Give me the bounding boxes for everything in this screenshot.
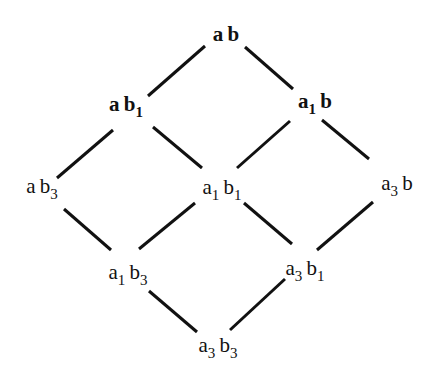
node-ab3: a b3 xyxy=(26,176,58,202)
edge-ab1-ab3 xyxy=(57,130,113,178)
edge-a1b-a1b1 xyxy=(237,121,290,168)
node-subscript: 3 xyxy=(391,183,399,199)
node-a1b3: a1 b3 xyxy=(108,262,147,288)
node-a1b: a1 b xyxy=(298,91,332,117)
node-symbol: b xyxy=(320,89,332,113)
node-subscript: 3 xyxy=(140,272,148,288)
node-subscript: 3 xyxy=(295,268,303,284)
edge-ab3-a1b3 xyxy=(64,209,111,250)
node-symbol: a xyxy=(381,171,390,195)
node-symbol: a xyxy=(298,89,309,113)
node-symbol: b xyxy=(402,171,413,195)
node-subscript: 1 xyxy=(317,268,325,284)
node-symbol: b xyxy=(124,92,136,116)
edge-a3b-a3b1 xyxy=(317,202,373,250)
edge-a3b1-a3b3 xyxy=(230,279,285,330)
edge-a1b-a3b xyxy=(322,120,369,159)
edge-a1b3-a3b3 xyxy=(149,291,197,332)
node-subscript: 1 xyxy=(309,101,317,117)
node-a3b3: a3 b3 xyxy=(198,335,237,361)
node-symbol: b xyxy=(307,256,318,280)
node-symbol: b xyxy=(40,174,51,198)
edge-a1b1-a3b1 xyxy=(244,203,292,244)
node-symbol: a xyxy=(109,92,120,116)
node-subscript: 1 xyxy=(212,187,220,203)
node-symbol: b xyxy=(130,260,141,284)
node-subscript: 3 xyxy=(208,345,216,361)
edge-ab1-a1b1 xyxy=(153,127,202,168)
node-symbol: a xyxy=(198,333,207,357)
node-a3b: a3 b xyxy=(381,173,413,199)
node-subscript: 1 xyxy=(234,187,242,203)
node-symbol: a xyxy=(26,174,35,198)
edge-ab-a1b xyxy=(245,47,293,89)
node-symbol: b xyxy=(224,175,235,199)
node-symbol: a xyxy=(108,260,117,284)
node-symbol: b xyxy=(220,333,231,357)
node-subscript: 3 xyxy=(50,186,58,202)
node-subscript: 3 xyxy=(230,345,238,361)
node-a1b1: a1 b1 xyxy=(202,177,241,203)
node-symbol: b xyxy=(228,22,240,46)
edge-a1b1-a1b3 xyxy=(139,203,195,249)
node-symbol: a xyxy=(202,175,211,199)
node-symbol: a xyxy=(213,22,224,46)
node-ab1: a b1 xyxy=(109,94,143,120)
edge-ab-ab1 xyxy=(148,46,205,96)
node-symbol: a xyxy=(285,256,294,280)
node-subscript: 1 xyxy=(135,104,143,120)
node-ab: a b xyxy=(213,24,239,45)
node-subscript: 1 xyxy=(118,272,126,288)
node-a3b1: a3 b1 xyxy=(285,258,324,284)
